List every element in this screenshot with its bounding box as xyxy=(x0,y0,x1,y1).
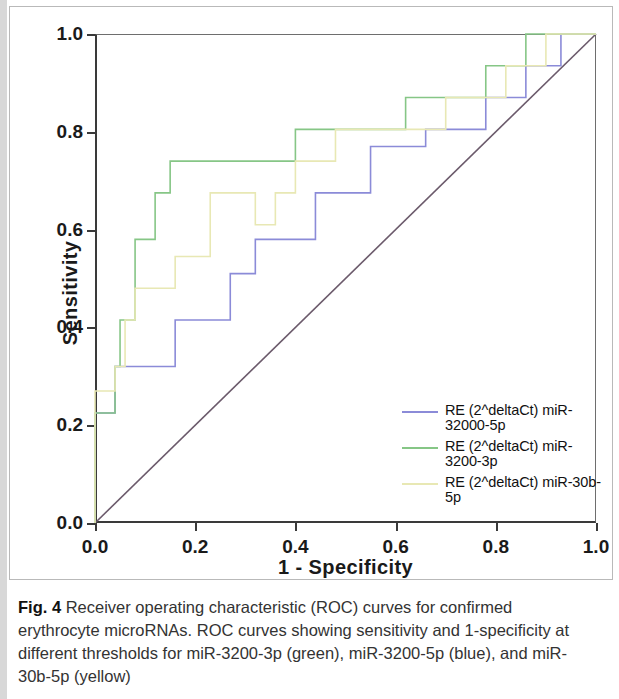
legend-item-green: RE (2^deltaCt) miR-3200-3p xyxy=(402,439,602,469)
x-tick-mark xyxy=(596,523,598,531)
y-tick-mark xyxy=(87,132,95,134)
y-tick-label: 0.8 xyxy=(57,121,83,143)
y-tick-label: 0.4 xyxy=(57,316,83,338)
y-tick-label: 0.0 xyxy=(57,512,83,534)
x-tick-mark xyxy=(396,523,398,531)
x-tick-mark xyxy=(195,523,197,531)
legend-label: RE (2^deltaCt) miR-3200-3p xyxy=(445,439,602,469)
roc-chart-panel: Sensitivity 1 - Specificity 0.00.20.40.6… xyxy=(9,6,613,580)
legend-label: RE (2^deltaCt) miR-32000-5p xyxy=(445,403,602,433)
y-tick-mark xyxy=(87,523,95,525)
y-tick-label: 0.2 xyxy=(57,414,83,436)
x-tick-mark xyxy=(496,523,498,531)
x-tick-label: 0.2 xyxy=(182,536,208,558)
legend-swatch-yellow-icon xyxy=(402,475,438,491)
legend-item-yellow: RE (2^deltaCt) miR-30b-5p xyxy=(402,475,602,505)
legend-swatch-blue-icon xyxy=(402,403,438,419)
y-tick-label: 1.0 xyxy=(57,23,83,45)
figure-caption-label: Fig. 4 xyxy=(18,598,61,616)
x-tick-mark xyxy=(295,523,297,531)
y-tick-mark xyxy=(87,34,95,36)
y-tick-label: 0.6 xyxy=(57,219,83,241)
x-tick-label: 0.6 xyxy=(382,536,408,558)
x-tick-mark xyxy=(95,523,97,531)
page-edge xyxy=(0,0,7,699)
x-tick-label: 1.0 xyxy=(583,536,609,558)
legend-label: RE (2^deltaCt) miR-30b-5p xyxy=(445,475,602,505)
y-tick-mark xyxy=(87,230,95,232)
figure-root: Sensitivity 1 - Specificity 0.00.20.40.6… xyxy=(0,0,619,699)
y-tick-mark xyxy=(87,425,95,427)
y-tick-mark xyxy=(87,327,95,329)
legend-swatch-green-icon xyxy=(402,439,438,455)
chart-legend: RE (2^deltaCt) miR-32000-5pRE (2^deltaCt… xyxy=(402,403,602,511)
x-tick-label: 0.8 xyxy=(483,536,509,558)
legend-item-blue: RE (2^deltaCt) miR-32000-5p xyxy=(402,403,602,433)
figure-caption-text: Receiver operating characteristic (ROC) … xyxy=(18,598,569,685)
x-tick-label: 0.0 xyxy=(82,536,108,558)
x-tick-label: 0.4 xyxy=(282,536,308,558)
x-axis-title: 1 - Specificity xyxy=(95,556,596,579)
figure-caption: Fig. 4 Receiver operating characteristic… xyxy=(18,596,598,688)
